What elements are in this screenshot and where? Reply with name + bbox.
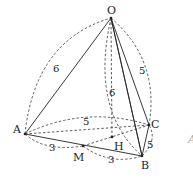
- length-OB: 6: [109, 87, 115, 98]
- point-M: [82, 145, 85, 148]
- label-M: M: [73, 151, 84, 164]
- length-OA: 6: [53, 63, 59, 74]
- label-H: H: [114, 140, 124, 153]
- length-AC: 5: [83, 116, 89, 127]
- edge-OM: [111, 18, 142, 156]
- cut-off-label: A: [187, 133, 193, 146]
- tetrahedron-diagram: O A C B M H 6 6 5 5 3 3 5 A: [0, 0, 193, 179]
- label-O: O: [107, 4, 116, 17]
- length-OC: 5: [139, 65, 145, 76]
- edge-OA: [25, 18, 111, 134]
- label-B: B: [141, 159, 149, 172]
- point-H: [111, 136, 114, 139]
- edge-OH: [111, 18, 112, 137]
- length-BC: 5: [147, 139, 153, 150]
- point-A: [24, 133, 27, 136]
- length-AM: 3: [49, 142, 55, 153]
- label-A: A: [12, 123, 22, 136]
- label-C: C: [151, 118, 159, 131]
- point-O: [110, 17, 113, 20]
- point-B: [141, 155, 144, 158]
- point-C: [148, 124, 151, 127]
- length-MB: 3: [108, 154, 114, 165]
